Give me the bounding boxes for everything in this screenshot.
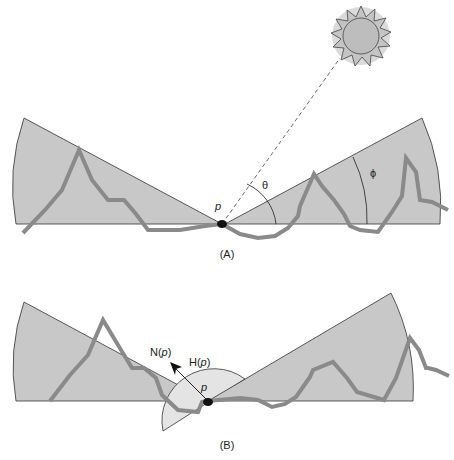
point-p-marker-b: [203, 398, 213, 406]
panel-b-caption: (B): [220, 439, 235, 451]
point-p-label-b: p: [200, 381, 207, 393]
theta-label: θ: [262, 179, 268, 191]
normal-label: N(p): [150, 346, 171, 358]
point-p-label: p: [214, 200, 221, 212]
hemisphere-label: H(p): [189, 356, 210, 368]
right-horizon-wedge-b: [208, 293, 413, 401]
panel-a: p θ ϕ (A): [13, 6, 448, 260]
point-p-marker: [217, 220, 227, 228]
right-horizon-wedge: [225, 118, 441, 224]
sun-icon: [331, 6, 391, 66]
horizon-occlusion-diagram: p θ ϕ (A) N(p) H(p) p (B): [0, 0, 454, 460]
phi-label: ϕ: [370, 167, 376, 179]
panel-b: N(p) H(p) p (B): [13, 293, 449, 451]
panel-a-caption: (A): [220, 248, 235, 260]
